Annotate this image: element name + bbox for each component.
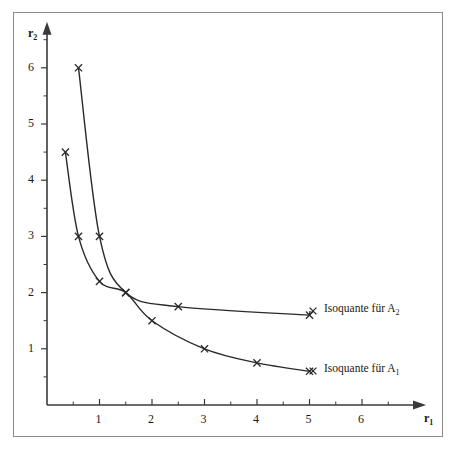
data-point-marker	[201, 345, 208, 352]
legend-entry-a1: Isoquante für A1	[324, 362, 400, 377]
y-tick-label: 4	[28, 172, 34, 187]
x-tick-label: 3	[201, 412, 207, 427]
data-series-group	[62, 64, 313, 375]
series-line	[79, 68, 310, 315]
y-tick-label: 3	[28, 228, 34, 243]
x-tick-label: 5	[306, 412, 312, 427]
x-tick-label: 4	[253, 412, 259, 427]
data-point-marker	[310, 308, 317, 315]
chart-figure: r2 r1 123456123456 Isoquante für A2 Isoq…	[0, 0, 458, 452]
chart-plot-area	[0, 0, 458, 452]
x-axis-title: r1	[424, 411, 433, 427]
series-a1	[62, 149, 313, 375]
y-tick-label: 5	[28, 116, 34, 131]
x-tick-label: 1	[96, 412, 102, 427]
data-point-marker	[148, 317, 155, 324]
data-point-marker	[96, 278, 103, 285]
data-point-marker	[122, 289, 129, 296]
y-axis-arrowhead	[43, 22, 52, 35]
y-axis-title: r2	[28, 26, 37, 42]
series-line	[65, 152, 309, 371]
x-tick-label: 6	[358, 412, 364, 427]
y-tick-label: 6	[28, 60, 34, 75]
y-tick-label: 2	[28, 285, 34, 300]
series-a2	[75, 64, 313, 318]
axes-group	[41, 22, 426, 410]
y-tick-label: 1	[28, 341, 34, 356]
x-tick-label: 2	[148, 412, 154, 427]
legend-entry-a2: Isoquante für A2	[324, 302, 400, 317]
x-axis-arrowhead	[413, 401, 426, 410]
